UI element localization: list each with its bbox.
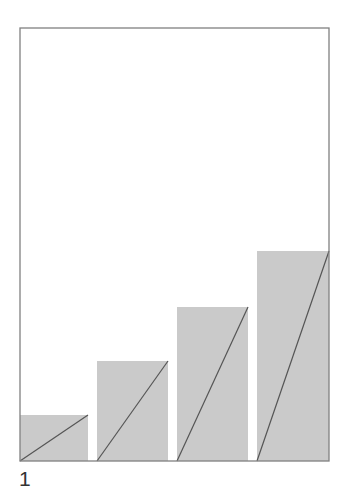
bar-diagram — [0, 0, 354, 494]
figure-number-label: 1 — [19, 468, 31, 489]
bars-group — [20, 251, 329, 461]
